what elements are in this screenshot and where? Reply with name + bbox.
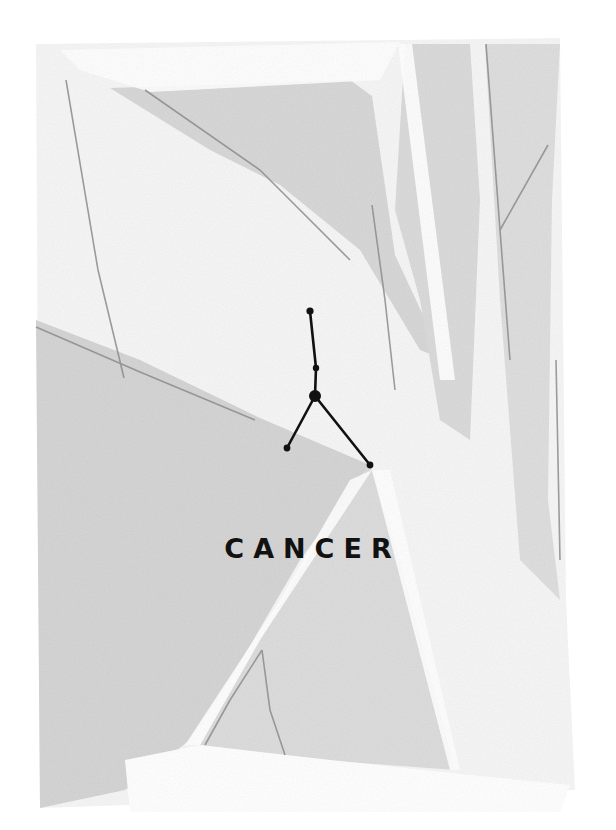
star-icon bbox=[306, 307, 313, 314]
star-icon bbox=[367, 462, 374, 469]
star-icon bbox=[313, 365, 319, 371]
poster: CANCER bbox=[0, 0, 616, 830]
star-icon bbox=[309, 390, 321, 402]
star-icon bbox=[284, 445, 291, 452]
zodiac-title: CANCER bbox=[0, 533, 616, 564]
watercolor-background bbox=[0, 0, 616, 830]
